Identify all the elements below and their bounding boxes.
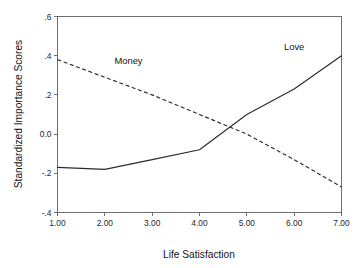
x-tick-label: 4.00: [191, 218, 208, 228]
y-tick-label: .6: [45, 12, 52, 22]
x-tick-label: 3.00: [144, 218, 161, 228]
series-label-money: Money: [114, 55, 142, 66]
y-tick-label: -.4: [42, 208, 52, 218]
y-axis-title: Standardized Importance Scores: [13, 40, 24, 188]
x-tick-label: 7.00: [333, 218, 350, 228]
y-tick-label: .4: [45, 51, 52, 61]
y-tick-label: 0.0: [40, 129, 52, 139]
x-tick-label: 1.00: [49, 218, 66, 228]
x-tick-label: 2.00: [97, 218, 114, 228]
chart-container: .6.4.20.0-.2-.4 1.002.003.004.005.006.00…: [0, 0, 363, 268]
line-chart: .6.4.20.0-.2-.4 1.002.003.004.005.006.00…: [0, 0, 363, 268]
x-tick-label: 6.00: [286, 218, 303, 228]
series-label-love: Love: [284, 41, 304, 52]
x-axis-title: Life Satisfaction: [163, 249, 235, 260]
y-tick-label: .2: [45, 90, 52, 100]
y-tick-label: -.2: [42, 168, 52, 178]
x-tick-label: 5.00: [239, 218, 256, 228]
